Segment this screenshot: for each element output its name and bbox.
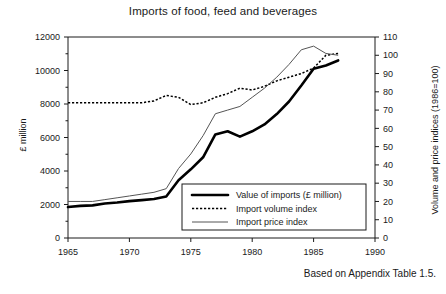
series-line-2	[68, 46, 338, 201]
y-tick-right: 110	[383, 32, 397, 42]
x-tick: 1965	[58, 247, 78, 257]
chart-title: Imports of food, feed and beverages	[0, 5, 446, 17]
chart-figure: Imports of food, feed and beverages £ mi…	[0, 0, 446, 294]
legend-label-1: Import volume index	[236, 204, 318, 214]
y-tick-left: 2000	[40, 200, 60, 210]
x-tick: 1990	[365, 247, 385, 257]
y-tick-right: 10	[383, 215, 393, 225]
x-tick: 1980	[242, 247, 262, 257]
series-line-1	[68, 53, 338, 104]
y-tick-left: 12000	[35, 32, 60, 42]
y-tick-left: 8000	[40, 99, 60, 109]
y-tick-left: 10000	[35, 66, 60, 76]
y-tick-right: 50	[383, 142, 393, 152]
y-tick-left: 6000	[40, 133, 60, 143]
data-series	[68, 46, 338, 207]
legend-label-0: Value of imports (£ million)	[236, 190, 342, 200]
y-tick-right: 60	[383, 124, 393, 134]
y-axis-label-left: £ million	[18, 90, 28, 180]
source-note: Based on Appendix Table 1.5.	[0, 268, 436, 279]
y-tick-right: 70	[383, 105, 393, 115]
y-tick-left: 0	[55, 233, 60, 243]
legend-label-2: Import price index	[236, 217, 308, 227]
x-tick: 1975	[181, 247, 201, 257]
y-tick-right: 100	[383, 50, 398, 60]
y-tick-right: 80	[383, 87, 393, 97]
y-axis-label-right: Volume and price indices (1986=100)	[430, 60, 440, 220]
y-tick-left: 4000	[40, 166, 60, 176]
y-tick-right: 20	[383, 197, 393, 207]
x-tick: 1985	[304, 247, 324, 257]
x-tick: 1970	[119, 247, 139, 257]
y-tick-right: 90	[383, 69, 393, 79]
y-tick-right: 30	[383, 178, 393, 188]
chart-legend: Value of imports (£ million)Import volum…	[182, 184, 366, 230]
y-tick-right: 0	[383, 233, 388, 243]
chart-plot-area: 0200040006000800010000120000102030405060…	[0, 0, 446, 294]
y-tick-right: 40	[383, 160, 393, 170]
